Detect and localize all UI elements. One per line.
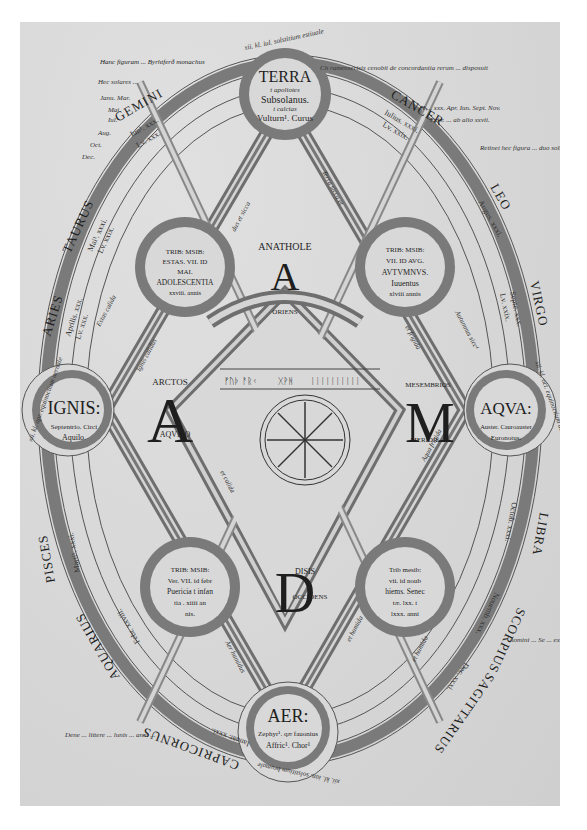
season-circle-autumn	[355, 217, 455, 317]
svg-text:Febr. ... ab alio xxvii.: Febr. ... ab alio xxvii.	[429, 116, 490, 124]
svg-text:Septentrio. Circi: Septentrio. Circi	[51, 423, 97, 431]
svg-text:Oct.: Oct.	[90, 141, 102, 149]
svg-text:AER:: AER:	[267, 706, 308, 726]
svg-text:Trib mesib:: Trib mesib:	[389, 566, 421, 574]
svg-text:ᚠᚢᚦ ᚨᚱᚲ: ᚠᚢᚦ ᚨᚱᚲ	[224, 376, 257, 386]
svg-text:ᚷᚹᚻ: ᚷᚹᚻ	[278, 376, 293, 386]
svg-text:Iuuentus: Iuuentus	[391, 279, 419, 288]
west-direction: DISIS D OCCIDENS	[275, 562, 328, 624]
svg-text:Dec.: Dec.	[81, 153, 95, 161]
svg-text:Janu. Mar.: Janu. Mar.	[100, 94, 130, 102]
svg-text:nis.: nis.	[185, 610, 195, 618]
svg-text:Iul.: Iul.	[107, 116, 118, 124]
svg-text:AVTVMNVS.: AVTVMNVS.	[382, 268, 428, 277]
svg-text:Puericia t infan: Puericia t infan	[167, 587, 213, 596]
svg-text:Mai.: Mai.	[107, 106, 121, 114]
svg-text:ESTAS. VII. ID: ESTAS. VII. ID	[163, 258, 208, 266]
terra-text: TERRA t apoliotes Subsolanus. t calcias …	[257, 68, 314, 123]
svg-text:VII. ID AVG.: VII. ID AVG.	[386, 257, 424, 265]
svg-text:OCCIDENS: OCCIDENS	[292, 593, 327, 601]
svg-text:TRIB: MSIB:: TRIB: MSIB:	[166, 248, 205, 256]
title-line: Hanc figuram ... Byrhtferð monachus	[99, 58, 205, 66]
svg-text:Euronotus.: Euronotus.	[491, 434, 522, 442]
svg-text:Retinet hec figura ... duo sol: Retinet hec figura ... duo solsticia ...…	[479, 144, 560, 152]
svg-text:A: A	[271, 254, 300, 299]
svg-text:TERRA: TERRA	[259, 68, 312, 85]
quality-estas-sicca: dus et sicca	[230, 200, 253, 233]
svg-text:tia . xiiii an: tia . xiiii an	[174, 599, 206, 607]
svg-text:Zephyr¹. qæ fauonius: Zephyr¹. qæ fauonius	[258, 730, 318, 738]
svg-text:H ... xxx. Apr. Iun. Sept. Nov: H ... xxx. Apr. Iun. Sept. Nov.	[419, 104, 501, 112]
svg-text:ORIENS: ORIENS	[272, 308, 297, 316]
svg-text:TRIB: MSIB:: TRIB: MSIB:	[171, 566, 210, 574]
svg-text:Auster. Cauroauster: Auster. Cauroauster	[480, 423, 532, 430]
manuscript-page: ᚠᚢᚦ ᚨᚱᚲ ᚷᚹᚻ ᛁᛁᛁᛁᛁᛁᛁᛁᛁᛁ	[20, 22, 560, 806]
svg-text:vii. id noub: vii. id noub	[389, 577, 422, 585]
svg-text:AQVA:: AQVA:	[480, 399, 532, 418]
svg-text:MAI.: MAI.	[177, 268, 193, 276]
svg-text:xlviii annis: xlviii annis	[389, 290, 421, 298]
svg-text:MESEMBRIOS: MESEMBRIOS	[405, 381, 451, 389]
svg-text:Vulturn¹. Curus: Vulturn¹. Curus	[257, 113, 314, 123]
svg-text:tæ. lxx. t: tæ. lxx. t	[393, 599, 418, 607]
svg-text:Hec solares ...: Hec solares ...	[97, 78, 138, 86]
margin-right-bottom: homini ... Se ... ex sinul ... cuncta ..…	[510, 636, 560, 644]
svg-text:t calcias: t calcias	[273, 105, 297, 113]
svg-text:IGNIS:: IGNIS:	[48, 398, 101, 418]
margin-top-right: Ch ramenserisis cenobii de concordantia …	[320, 64, 489, 72]
svg-text:lxxx. anni: lxxx. anni	[391, 610, 419, 618]
zodiac-aries: ARIES	[39, 293, 66, 338]
svg-text:ADOLESCENTIA: ADOLESCENTIA	[156, 278, 214, 287]
svg-text:Subsolanus.: Subsolanus.	[261, 94, 309, 105]
svg-text:A: A	[147, 385, 193, 456]
svg-text:Affric¹. Chor¹: Affric¹. Chor¹	[266, 741, 311, 750]
svg-text:xxviii. annis: xxviii. annis	[169, 289, 202, 296]
byrhtferth-diagram: ᚠᚢᚦ ᚨᚱᚲ ᚷᚹᚻ ᛁᛁᛁᛁᛁᛁᛁᛁᛁᛁ	[20, 22, 560, 806]
svg-text:AQVILO: AQVILO	[160, 430, 191, 439]
north-direction: ARCTOS A AQVILO	[147, 377, 193, 456]
svg-text:TRIB: MSIB:: TRIB: MSIB:	[386, 246, 425, 254]
quality-hiems-humida: et humida	[410, 634, 430, 663]
zodiac-pisces: PISCES	[35, 534, 58, 585]
svg-text:hiems. Senec: hiems. Senec	[385, 587, 425, 596]
svg-text:Aug.: Aug.	[97, 129, 111, 137]
season-circle-summer	[135, 217, 235, 317]
svg-text:ANATHOLE: ANATHOLE	[258, 241, 311, 252]
rune-wheel	[260, 395, 350, 485]
margin-left-bottom: Dene ... littere ... lunis ... anni ...	[64, 731, 156, 739]
svg-text:ᛁᛁᛁᛁᛁᛁᛁᛁᛁᛁ: ᛁᛁᛁᛁᛁᛁᛁᛁᛁᛁ	[310, 376, 360, 386]
quality-autumnus: Autumnus sicc¹	[453, 308, 481, 350]
zodiac-libra: LIBRA	[529, 511, 551, 557]
svg-text:Ver. VII. id febr: Ver. VII. id febr	[168, 577, 213, 585]
svg-text:t apoliotes: t apoliotes	[270, 86, 300, 94]
svg-text:Aquilo.: Aquilo.	[62, 433, 86, 442]
quality-estas-calida: Estas calida	[94, 293, 118, 328]
